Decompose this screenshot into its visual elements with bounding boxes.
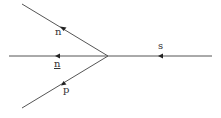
- diagram-lines: [0, 0, 221, 118]
- label-lower: p: [63, 85, 69, 95]
- label-upper: n: [55, 27, 61, 37]
- diagram-canvas: n n p s: [0, 0, 221, 118]
- upper-line: [22, 4, 108, 56]
- label-middle: n: [54, 59, 60, 69]
- lower-line: [22, 56, 108, 108]
- arrow-right-icon: [158, 54, 163, 59]
- label-right: s: [158, 41, 163, 51]
